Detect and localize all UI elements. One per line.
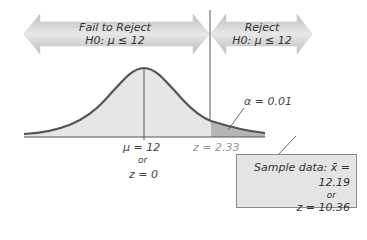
reject-label: Reject H0: μ ≤ 12 bbox=[224, 21, 300, 47]
critical-label: z = 2.33 bbox=[193, 141, 239, 154]
alpha-label: α = 0.01 bbox=[244, 95, 292, 108]
reject-line2: H0: μ ≤ 12 bbox=[224, 34, 300, 47]
mean-label: μ = 12 bbox=[123, 141, 160, 154]
fail-to-reject-line1: Fail to Reject bbox=[60, 21, 170, 34]
sample-data-box: Sample data: x̄ = 12.19 or z = 10.36 bbox=[236, 154, 357, 208]
alpha-pointer bbox=[228, 108, 244, 130]
fail-to-reject-label: Fail to Reject H0: μ ≤ 12 bbox=[60, 21, 170, 47]
sample-z: z = 10.36 bbox=[237, 200, 350, 215]
or-label: or bbox=[138, 155, 147, 165]
z0-label: z = 0 bbox=[129, 168, 158, 181]
fail-to-reject-line2: H0: μ ≤ 12 bbox=[60, 34, 170, 47]
sample-pointer bbox=[278, 136, 296, 155]
sample-or: or bbox=[237, 190, 350, 200]
body-region bbox=[24, 68, 211, 137]
reject-line1: Reject bbox=[224, 21, 300, 34]
sample-xbar: Sample data: x̄ = 12.19 bbox=[237, 160, 350, 190]
